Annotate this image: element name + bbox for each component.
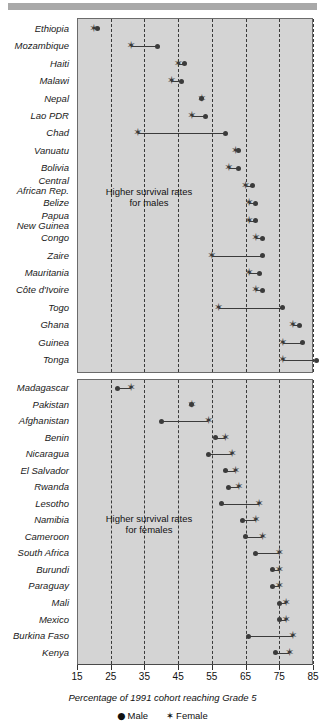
legend-item-female: ✶Female	[166, 710, 208, 721]
female-marker: ✶	[241, 181, 250, 191]
data-row: ✶	[0, 613, 325, 627]
chart-legend: ●Male✶Female	[0, 710, 325, 721]
x-axis: 1525354555657585	[77, 665, 313, 677]
x-tick-label-45: 45	[173, 671, 184, 682]
female-marker: ✶	[231, 466, 240, 476]
x-tick-65	[246, 665, 247, 670]
male-marker	[236, 148, 241, 153]
x-tick-label-85: 85	[307, 671, 318, 682]
x-tick-label-35: 35	[139, 671, 150, 682]
female-marker: ✶	[126, 383, 135, 393]
female-marker: ✶	[275, 565, 284, 575]
connector-line	[138, 133, 226, 134]
data-row: ✶	[0, 109, 325, 123]
connector-line	[283, 360, 317, 361]
x-tick-15	[77, 665, 78, 670]
male-marker	[159, 419, 164, 424]
data-row: ✶	[0, 398, 325, 412]
data-row: ✶	[0, 497, 325, 511]
male-marker	[300, 340, 305, 345]
data-row: ✶	[0, 563, 325, 577]
connector-line	[219, 308, 283, 309]
x-tick-25	[111, 665, 112, 670]
data-row: ✶	[0, 92, 325, 106]
data-row: ✶	[0, 74, 325, 88]
annotation-line-2: for females	[84, 524, 214, 535]
connector-line	[222, 504, 259, 505]
female-marker: ✶	[228, 449, 237, 459]
x-tick-label-65: 65	[240, 671, 251, 682]
x-tick-label-75: 75	[274, 671, 285, 682]
x-tick-85	[313, 665, 314, 670]
data-row: ✶	[0, 126, 325, 140]
data-row: ✶	[0, 39, 325, 53]
data-row: ✶	[0, 353, 325, 367]
x-tick-35	[144, 665, 145, 670]
data-row: ✶	[0, 318, 325, 332]
male-marker	[277, 617, 282, 622]
female-marker: ✶	[251, 285, 260, 295]
male-marker	[253, 201, 258, 206]
female-marker: ✶	[255, 499, 264, 509]
male-marker	[253, 218, 258, 223]
male-marker	[280, 305, 285, 310]
female-marker: ✶	[244, 198, 253, 208]
connector-line	[161, 421, 208, 422]
female-marker: ✶	[251, 515, 260, 525]
data-row: ✶	[0, 629, 325, 643]
female-marker: ✶	[285, 648, 294, 658]
male-dot-icon: ●	[117, 710, 125, 721]
annotation-line-1: Higher survival rates	[84, 513, 214, 524]
female-marker: ✶	[234, 482, 243, 492]
female-marker: ✶	[288, 320, 297, 330]
data-row: ✶	[0, 214, 325, 228]
data-row: ✶	[0, 381, 325, 395]
male-marker	[179, 79, 184, 84]
male-marker	[182, 61, 187, 66]
male-marker	[260, 253, 265, 258]
annotation-line-2: for males	[84, 197, 214, 208]
x-tick-55	[212, 665, 213, 670]
data-row: ✶	[0, 22, 325, 36]
female-marker: ✶	[244, 268, 253, 278]
data-row: ✶	[0, 266, 325, 280]
male-marker	[236, 166, 241, 171]
figure-root: EthiopiaMozambiqueHaitiMalawiNepalLao PD…	[0, 0, 325, 728]
female-marker: ✶	[282, 598, 291, 608]
male-marker	[219, 501, 224, 506]
data-row: ✶	[0, 301, 325, 315]
male-marker	[223, 131, 228, 136]
male-marker	[223, 468, 228, 473]
female-marker: ✶	[221, 433, 230, 443]
female-marker: ✶	[278, 355, 287, 365]
annotation-higher-males: Higher survival ratesfor males	[84, 186, 214, 208]
male-marker	[297, 323, 302, 328]
data-row: ✶	[0, 480, 325, 494]
female-marker: ✶	[207, 251, 216, 261]
male-marker	[115, 386, 120, 391]
data-row: ✶	[0, 579, 325, 593]
female-marker: ✶	[204, 416, 213, 426]
header-bar	[8, 3, 317, 10]
female-marker: ✶	[258, 532, 267, 542]
female-star-icon: ✶	[166, 710, 174, 721]
female-marker: ✶	[167, 76, 176, 86]
connector-line	[249, 636, 293, 637]
legend-label-female: Female	[176, 710, 208, 721]
data-row: ✶	[0, 646, 325, 660]
data-row: ✶	[0, 249, 325, 263]
male-marker	[226, 485, 231, 490]
female-marker: ✶	[288, 631, 297, 641]
female-marker: ✶	[126, 41, 135, 51]
data-row: ✶	[0, 57, 325, 71]
data-row: ✶	[0, 283, 325, 297]
male-marker	[206, 452, 211, 457]
male-marker	[243, 534, 248, 539]
male-marker	[250, 183, 255, 188]
male-marker	[203, 114, 208, 119]
female-marker: ✶	[214, 303, 223, 313]
data-row: ✶	[0, 144, 325, 158]
female-marker: ✶	[278, 338, 287, 348]
annotation-higher-females: Higher survival ratesfor females	[84, 513, 214, 535]
male-marker	[260, 236, 265, 241]
